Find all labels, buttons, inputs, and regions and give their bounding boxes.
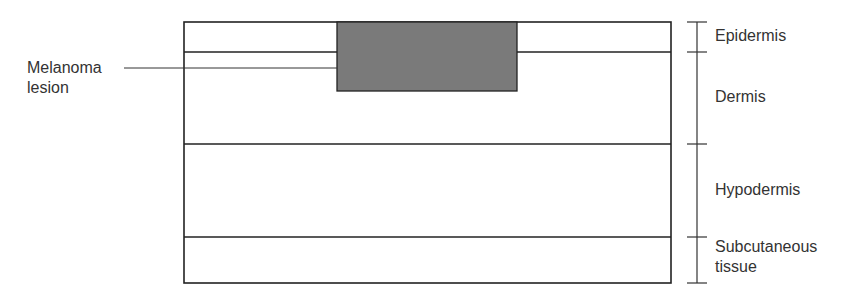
hypodermis-label: Hypodermis [715,180,800,200]
layer-bracket [687,22,707,283]
melanoma-label-line2: lesion [27,79,69,96]
subcutaneous-label-line2: tissue [715,258,757,275]
subcutaneous-label-line1: Subcutaneous [715,238,817,255]
melanoma-label: Melanoma lesion [27,58,102,98]
melanoma-label-line1: Melanoma [27,59,102,76]
epidermis-label: Epidermis [715,26,786,46]
melanoma-lesion [337,22,517,91]
dermis-label: Dermis [715,87,766,107]
subcutaneous-label: Subcutaneous tissue [715,237,817,277]
